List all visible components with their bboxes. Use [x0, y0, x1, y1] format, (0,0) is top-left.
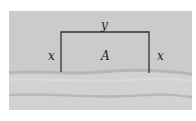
label-area-a: A	[101, 50, 110, 62]
label-top-y: y	[101, 19, 108, 31]
label-right-x: x	[157, 50, 164, 62]
label-left-x: x	[48, 50, 55, 62]
diagram-lines	[0, 0, 196, 121]
river-highlight	[9, 78, 192, 81]
river-far-bank	[9, 95, 192, 97]
riverbank-line	[9, 70, 192, 74]
